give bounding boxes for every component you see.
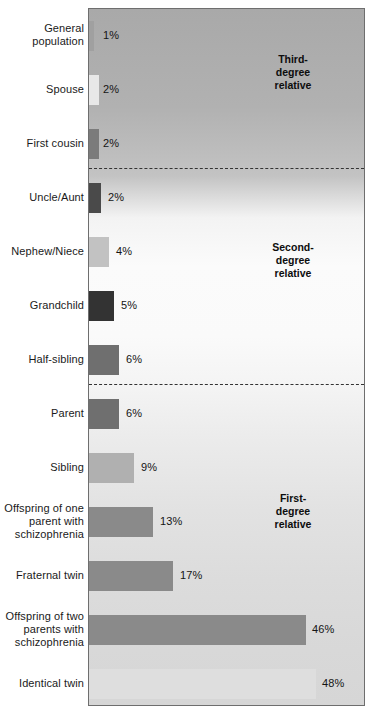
category-label-line: Grandchild bbox=[0, 299, 84, 312]
bar-first-cousin[interactable] bbox=[89, 129, 99, 159]
bar-sibling[interactable] bbox=[89, 453, 134, 483]
bar-row-grandchild: 5% bbox=[89, 279, 364, 333]
bar-offspring-one-parent[interactable] bbox=[89, 507, 153, 537]
bar-value-spouse: 2% bbox=[103, 83, 119, 95]
category-label-line: parent with bbox=[0, 515, 84, 528]
bar-spouse[interactable] bbox=[89, 75, 99, 105]
category-label-line: Spouse bbox=[0, 83, 84, 96]
bar-row-spouse: 2% bbox=[89, 63, 364, 117]
category-label-line: parents with bbox=[0, 623, 84, 636]
bar-value-offspring-two-parents: 46% bbox=[312, 623, 334, 635]
category-label-general-population: General population bbox=[0, 22, 84, 48]
category-label-sibling: Sibling bbox=[0, 461, 84, 474]
category-label-line: Offspring of two bbox=[0, 610, 84, 623]
bar-uncle-aunt[interactable] bbox=[89, 183, 101, 213]
bar-value-nephew-niece: 4% bbox=[116, 245, 132, 257]
bar-row-half-sibling: 6% bbox=[89, 333, 364, 387]
bar-nephew-niece[interactable] bbox=[89, 237, 109, 267]
category-label-line: Identical twin bbox=[0, 677, 84, 690]
category-label-identical-twin: Identical twin bbox=[0, 677, 84, 690]
bar-row-identical-twin: 48% bbox=[89, 657, 364, 706]
bar-value-half-sibling: 6% bbox=[126, 353, 142, 365]
bar-row-fraternal-twin: 17% bbox=[89, 549, 364, 603]
plot-area: Third- degree relative Second- degree re… bbox=[88, 8, 365, 706]
bar-identical-twin[interactable] bbox=[89, 669, 316, 699]
bar-value-offspring-one-parent: 13% bbox=[160, 515, 182, 527]
category-label-fraternal-twin: Fraternal twin bbox=[0, 569, 84, 582]
bar-row-parent: 6% bbox=[89, 387, 364, 441]
category-label-offspring-two-parents: Offspring of two parents with schizophre… bbox=[0, 610, 84, 649]
bar-grandchild[interactable] bbox=[89, 291, 114, 321]
bar-value-general-population: 1% bbox=[103, 29, 119, 41]
bar-general-population[interactable] bbox=[89, 21, 94, 51]
category-label-line: General bbox=[0, 22, 84, 35]
category-label-half-sibling: Half-sibling bbox=[0, 353, 84, 366]
bar-row-nephew-niece: 4% bbox=[89, 225, 364, 279]
bar-fraternal-twin[interactable] bbox=[89, 561, 173, 591]
schizophrenia-risk-bar-chart: General population Spouse First cousin U… bbox=[0, 0, 377, 723]
category-label-grandchild: Grandchild bbox=[0, 299, 84, 312]
category-label-line: Fraternal twin bbox=[0, 569, 84, 582]
category-label-line: Half-sibling bbox=[0, 353, 84, 366]
bar-offspring-two-parents[interactable] bbox=[89, 615, 306, 645]
category-axis-labels: General population Spouse First cousin U… bbox=[0, 8, 88, 706]
bar-value-first-cousin: 2% bbox=[103, 137, 119, 149]
category-label-uncle-aunt: Uncle/Aunt bbox=[0, 191, 84, 204]
category-label-parent: Parent bbox=[0, 407, 84, 420]
bar-value-identical-twin: 48% bbox=[322, 677, 344, 689]
bar-value-fraternal-twin: 17% bbox=[180, 569, 202, 581]
category-label-line: schizophrenia bbox=[0, 636, 84, 649]
category-label-line: Nephew/Niece bbox=[0, 245, 84, 258]
bar-row-offspring-two-parents: 46% bbox=[89, 603, 364, 657]
category-label-line: Sibling bbox=[0, 461, 84, 474]
bar-value-grandchild: 5% bbox=[121, 299, 137, 311]
bar-row-sibling: 9% bbox=[89, 441, 364, 495]
category-label-line: Offspring of one bbox=[0, 502, 84, 515]
bar-parent[interactable] bbox=[89, 399, 119, 429]
category-label-line: Parent bbox=[0, 407, 84, 420]
category-label-offspring-one-parent: Offspring of one parent with schizophren… bbox=[0, 502, 84, 541]
bar-row-offspring-one-parent: 13% bbox=[89, 495, 364, 549]
category-label-line: First cousin bbox=[0, 137, 84, 150]
bar-row-uncle-aunt: 2% bbox=[89, 171, 364, 225]
bar-row-first-cousin: 2% bbox=[89, 117, 364, 171]
category-label-nephew-niece: Nephew/Niece bbox=[0, 245, 84, 258]
bar-row-general-population: 1% bbox=[89, 9, 364, 63]
bar-half-sibling[interactable] bbox=[89, 345, 119, 375]
bar-value-parent: 6% bbox=[126, 407, 142, 419]
category-label-line: population bbox=[0, 35, 84, 48]
category-label-first-cousin: First cousin bbox=[0, 137, 84, 150]
bar-value-uncle-aunt: 2% bbox=[108, 191, 124, 203]
bar-value-sibling: 9% bbox=[141, 461, 157, 473]
category-label-spouse: Spouse bbox=[0, 83, 84, 96]
category-label-line: schizophrenia bbox=[0, 528, 84, 541]
category-label-line: Uncle/Aunt bbox=[0, 191, 84, 204]
